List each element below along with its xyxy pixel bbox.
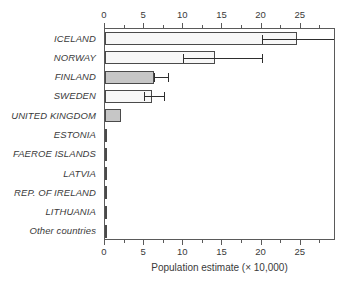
x-axis-title: Population estimate (× 10,000) — [104, 262, 335, 273]
category-label: ICELAND — [54, 32, 96, 43]
bar — [105, 71, 154, 84]
x-tick-minor — [202, 240, 203, 243]
category-label: FINLAND — [55, 71, 96, 82]
bar — [105, 167, 107, 180]
bar — [105, 129, 107, 142]
category-label: ESTONIA — [54, 129, 96, 140]
x-tick-label: 5 — [140, 9, 145, 20]
category-label: SWEDEN — [54, 90, 96, 101]
x-tick-label: 10 — [177, 9, 188, 20]
x-tick-label: 10 — [177, 246, 188, 257]
x-tick-minor — [280, 240, 281, 243]
x-tick-minor — [124, 240, 125, 243]
bar — [105, 206, 107, 219]
x-tick-label: 0 — [101, 9, 106, 20]
category-label: UNITED KINGDOM — [11, 109, 96, 120]
x-tick-label: 20 — [255, 9, 266, 20]
x-tick-label: 0 — [101, 246, 106, 257]
category-label: NORWAY — [54, 51, 96, 62]
error-bar-cap-high — [262, 54, 263, 63]
category-label: REP. OF IRELAND — [14, 186, 96, 197]
x-tick-label: 25 — [294, 9, 305, 20]
x-tick-label: 5 — [140, 246, 145, 257]
x-tick-major — [182, 240, 183, 245]
category-label: Other countries — [30, 225, 96, 236]
error-bar-cap-low — [262, 35, 263, 44]
x-tick-major — [221, 240, 222, 245]
error-bar-cap-high — [164, 92, 165, 101]
error-bar-line — [154, 77, 167, 78]
category-axis-labels: ICELANDNORWAYFINLANDSWEDENUNITED KINGDOM… — [0, 28, 100, 240]
error-bar-cap-low — [144, 92, 145, 101]
error-bar-cap-low — [154, 73, 155, 82]
category-label: FAEROE ISLANDS — [13, 148, 96, 159]
x-tick-label: 15 — [216, 246, 227, 257]
x-tick-major — [104, 240, 105, 245]
error-bar-line — [144, 96, 164, 97]
population-bar-chart: ICELANDNORWAYFINLANDSWEDENUNITED KINGDOM… — [0, 0, 353, 286]
error-bar-cap-high — [168, 73, 169, 82]
x-tick-label: 20 — [255, 246, 266, 257]
bar — [105, 148, 107, 161]
x-tick-major — [261, 240, 262, 245]
x-tick-major — [143, 240, 144, 245]
error-bar-line — [183, 58, 261, 59]
error-bar-cap-low — [183, 54, 184, 63]
category-label: LITHUANIA — [45, 206, 96, 217]
category-label: LATVIA — [63, 167, 96, 178]
bar — [105, 186, 107, 199]
x-tick-minor — [241, 240, 242, 243]
error-bar-line — [262, 39, 335, 40]
x-tick-minor — [163, 240, 164, 243]
bar — [105, 225, 107, 238]
x-tick-major — [300, 240, 301, 245]
x-tick-label: 15 — [216, 9, 227, 20]
x-tick-minor — [319, 240, 320, 243]
bar — [105, 109, 121, 122]
x-tick-label: 25 — [294, 246, 305, 257]
plot-area — [104, 28, 335, 240]
